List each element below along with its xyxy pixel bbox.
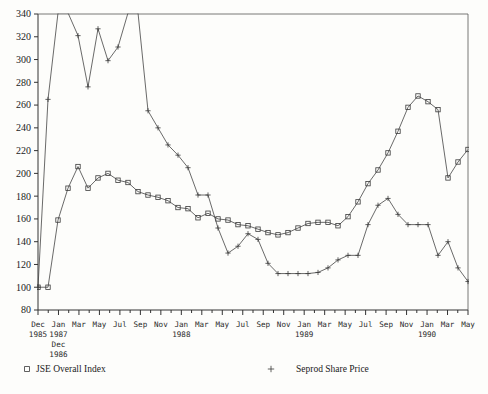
x-axis-tick-label: Mar xyxy=(441,320,455,329)
x-axis-tick-label: Sep xyxy=(134,320,148,329)
x-axis-tick-label: Jul xyxy=(236,320,250,329)
plus-marker-icon xyxy=(85,84,90,89)
plus-marker-icon xyxy=(315,270,320,275)
x-axis-tick-label: Jul xyxy=(113,320,127,329)
x-axis-tick-label: Dec xyxy=(31,320,45,329)
y-axis-tick-label: 280 xyxy=(16,77,31,88)
x-axis-year-label: 1987 xyxy=(49,330,67,339)
x-axis-tick-label: Nov xyxy=(277,320,291,329)
plus-marker-icon xyxy=(385,196,390,201)
line-chart: 8010012014016018020022024026028030032034… xyxy=(0,0,488,394)
plus-marker-icon xyxy=(285,271,290,276)
data-series xyxy=(35,13,470,290)
plus-marker-icon xyxy=(75,33,80,38)
x-axis-tick-label: Mar xyxy=(318,320,332,329)
x-axis-tick-label: Nov xyxy=(154,320,168,329)
plus-marker-icon xyxy=(215,225,220,230)
legend-label: JSE Overall Index xyxy=(36,364,106,374)
x-axis-tick-label: Mar xyxy=(72,320,86,329)
x-axis-tick-label: May xyxy=(338,320,352,329)
y-axis-tick-label: 80 xyxy=(21,304,31,315)
x-axis-tick-label: Nov xyxy=(400,320,414,329)
plus-marker-icon xyxy=(225,250,230,255)
y-axis-tick-label: 240 xyxy=(16,122,31,133)
series-1 xyxy=(36,94,470,290)
plus-marker-icon xyxy=(355,253,360,258)
x-axis-tick-label: Jul xyxy=(359,320,373,329)
series-2 xyxy=(35,13,470,290)
x-axis-tick-label: Mar xyxy=(195,320,209,329)
series-polyline xyxy=(38,96,468,287)
plus-marker-icon xyxy=(45,97,50,102)
x-axis-year-label: Dec xyxy=(52,340,66,349)
series-polyline xyxy=(38,13,468,287)
y-axis-tick-label: 200 xyxy=(16,168,31,179)
plus-marker-icon xyxy=(425,222,430,227)
plus-marker-icon xyxy=(345,253,350,258)
plus-marker-icon xyxy=(145,108,150,113)
plus-marker-icon xyxy=(95,26,100,31)
plus-marker-icon xyxy=(295,271,300,276)
y-axis: 8010012014016018020022024026028030032034… xyxy=(16,8,38,315)
chart-legend: JSE Overall IndexSeprod Share Price xyxy=(25,364,369,374)
x-axis-tick-label: Jan xyxy=(174,320,188,329)
x-axis-tick-label: May xyxy=(215,320,229,329)
y-axis-tick-label: 140 xyxy=(16,236,31,247)
y-axis-tick-label: 340 xyxy=(16,8,31,19)
x-axis-tick-label: Jan xyxy=(52,320,66,329)
plus-marker-icon xyxy=(195,192,200,197)
legend-label: Seprod Share Price xyxy=(296,364,369,374)
y-axis-tick-label: 180 xyxy=(16,191,31,202)
y-axis-tick-label: 100 xyxy=(16,282,31,293)
x-axis-tick-label: May xyxy=(93,320,107,329)
x-axis-year-label: 1985 xyxy=(29,330,47,339)
y-axis-tick-label: 160 xyxy=(16,213,31,224)
square-marker-icon xyxy=(25,367,30,372)
y-axis-tick-label: 120 xyxy=(16,259,31,270)
x-axis-year-label: 1986 xyxy=(49,350,68,359)
x-axis-tick-label: Jan xyxy=(297,320,311,329)
y-axis-tick-label: 260 xyxy=(16,99,31,110)
y-axis-tick-label: 300 xyxy=(16,54,31,65)
x-axis-tick-label: Jan xyxy=(420,320,434,329)
plus-marker-icon xyxy=(155,125,160,130)
x-axis-tick-label: May xyxy=(461,320,475,329)
plus-marker-icon xyxy=(255,237,260,242)
y-axis-tick-label: 220 xyxy=(16,145,31,156)
plus-marker-icon xyxy=(365,222,370,227)
x-axis-tick-label: Sep xyxy=(379,320,393,329)
plus-marker-icon xyxy=(305,271,310,276)
x-axis: DecJanMarMayJulSepNovJanMarMayJulSepNovJ… xyxy=(29,310,475,359)
x-axis-year-label: 1989 xyxy=(295,330,314,339)
plus-marker-icon xyxy=(268,366,274,372)
x-axis-year-label: 1988 xyxy=(172,330,191,339)
plus-marker-icon xyxy=(375,203,380,208)
plus-marker-icon xyxy=(205,192,210,197)
y-axis-tick-label: 320 xyxy=(16,31,31,42)
plot-frame xyxy=(38,14,468,310)
plus-marker-icon xyxy=(415,222,420,227)
chart-container: 8010012014016018020022024026028030032034… xyxy=(0,0,488,394)
x-axis-year-label: 1990 xyxy=(418,330,437,339)
x-axis-tick-label: Sep xyxy=(256,320,270,329)
